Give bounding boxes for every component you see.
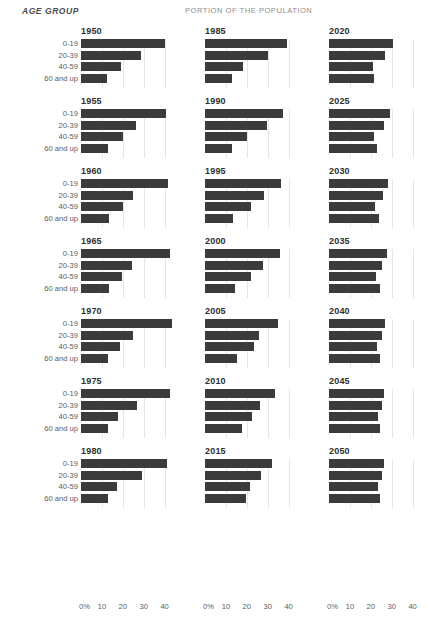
- panel-title-1965: 1965: [81, 236, 102, 246]
- bar-2020-20-39: [329, 51, 385, 60]
- panel-title-1990: 1990: [205, 96, 226, 106]
- bar-series-1965: [81, 249, 194, 298]
- age-label-20-39: 20-39: [59, 191, 78, 200]
- bar-1980-60-and-up: [81, 494, 108, 503]
- bar-2030-60-and-up: [329, 214, 379, 223]
- plot-area-1965: [81, 249, 194, 298]
- bar-row: [205, 389, 275, 398]
- age-label-0-19: 0-19: [63, 249, 78, 258]
- panel-column-0: 19500-1920-3940-5960 and up19550-1920-39…: [81, 24, 194, 626]
- bar-1980-0-19: [81, 459, 167, 468]
- bar-row: [205, 261, 263, 270]
- panel-2010: 2010: [205, 376, 318, 446]
- bar-row: [81, 459, 167, 468]
- bar-2045-0-19: [329, 389, 384, 398]
- bar-2040-60-and-up: [329, 354, 380, 363]
- panel-column-2: 20202025203020352040204520500%10203040: [329, 24, 429, 626]
- age-label-60-and-up: 60 and up: [44, 284, 78, 293]
- age-label-60-and-up: 60 and up: [44, 144, 78, 153]
- bar-row: [205, 342, 254, 351]
- bar-series-1990: [205, 109, 318, 158]
- bar-2005-0-19: [205, 319, 278, 328]
- bar-row: [81, 482, 117, 491]
- bar-2000-20-39: [205, 261, 263, 270]
- x-axis-column-2: 0%10203040: [329, 602, 429, 616]
- panel-title-2015: 2015: [205, 446, 226, 456]
- bar-series-1980: [81, 459, 194, 508]
- x-axis-column-0: 0%10203040: [81, 602, 194, 616]
- panel-1965: 19650-1920-3940-5960 and up: [81, 236, 194, 306]
- bar-2025-20-39: [329, 121, 384, 130]
- panel-column-1: 19851990199520002005201020150%10203040: [205, 24, 318, 626]
- bar-row: [205, 459, 272, 468]
- bar-2030-40-59: [329, 202, 375, 211]
- x-tick-label-0pct: 0%: [203, 602, 214, 611]
- plot-area-1970: [81, 319, 194, 368]
- plot-area-2045: [329, 389, 429, 438]
- panel-2005: 2005: [205, 306, 318, 376]
- bar-row: [205, 202, 251, 211]
- bar-row: [205, 191, 264, 200]
- bar-row: [329, 249, 387, 258]
- bar-row: [205, 144, 232, 153]
- bar-1975-0-19: [81, 389, 170, 398]
- bar-row: [329, 214, 379, 223]
- bar-1985-0-19: [205, 39, 287, 48]
- bar-series-2045: [329, 389, 429, 438]
- bar-1950-0-19: [81, 39, 165, 48]
- small-multiples-grid: 19500-1920-3940-5960 and up19550-1920-39…: [0, 24, 429, 626]
- bar-row: [329, 284, 380, 293]
- panel-title-1970: 1970: [81, 306, 102, 316]
- bar-row: [205, 132, 247, 141]
- age-group-header-label: AGE GROUP: [22, 6, 79, 16]
- bar-row: [329, 354, 380, 363]
- bar-row: [205, 412, 252, 421]
- bar-row: [81, 319, 172, 328]
- bar-1960-60-and-up: [81, 214, 109, 223]
- bar-2030-0-19: [329, 179, 388, 188]
- bar-2015-40-59: [205, 482, 250, 491]
- bar-2035-20-39: [329, 261, 382, 270]
- bar-row: [329, 389, 384, 398]
- bar-2010-20-39: [205, 401, 260, 410]
- bar-row: [329, 191, 383, 200]
- bar-series-1985: [205, 39, 318, 88]
- bar-row: [205, 74, 232, 83]
- bar-row: [329, 51, 385, 60]
- bar-row: [205, 272, 251, 281]
- bar-1995-40-59: [205, 202, 251, 211]
- panel-2035: 2035: [329, 236, 429, 306]
- bar-row: [205, 214, 233, 223]
- bar-row: [81, 132, 123, 141]
- bar-series-2040: [329, 319, 429, 368]
- bar-row: [329, 109, 390, 118]
- bar-row: [329, 424, 380, 433]
- plot-area-1960: [81, 179, 194, 228]
- age-label-60-and-up: 60 and up: [44, 214, 78, 223]
- bar-row: [205, 482, 250, 491]
- bar-2025-60-and-up: [329, 144, 377, 153]
- bar-row: [329, 179, 388, 188]
- bar-2030-20-39: [329, 191, 383, 200]
- age-label-0-19: 0-19: [63, 109, 78, 118]
- bar-2025-0-19: [329, 109, 390, 118]
- bar-series-2030: [329, 179, 429, 228]
- bar-row: [329, 261, 382, 270]
- bar-series-2050: [329, 459, 429, 508]
- x-tick-label-0pct: 0%: [79, 602, 90, 611]
- age-label-60-and-up: 60 and up: [44, 74, 78, 83]
- bar-row: [81, 179, 168, 188]
- panel-1950: 19500-1920-3940-5960 and up: [81, 26, 194, 96]
- bar-1955-20-39: [81, 121, 136, 130]
- panel-2050: 2050: [329, 446, 429, 516]
- bar-row: [329, 401, 382, 410]
- bar-1975-40-59: [81, 412, 118, 421]
- bar-2020-40-59: [329, 62, 373, 71]
- panel-1975: 19750-1920-3940-5960 and up: [81, 376, 194, 446]
- age-label-0-19: 0-19: [63, 389, 78, 398]
- age-label-40-59: 40-59: [59, 412, 78, 421]
- bar-2050-60-and-up: [329, 494, 380, 503]
- bar-row: [329, 319, 385, 328]
- bar-1950-20-39: [81, 51, 141, 60]
- plot-area-2030: [329, 179, 429, 228]
